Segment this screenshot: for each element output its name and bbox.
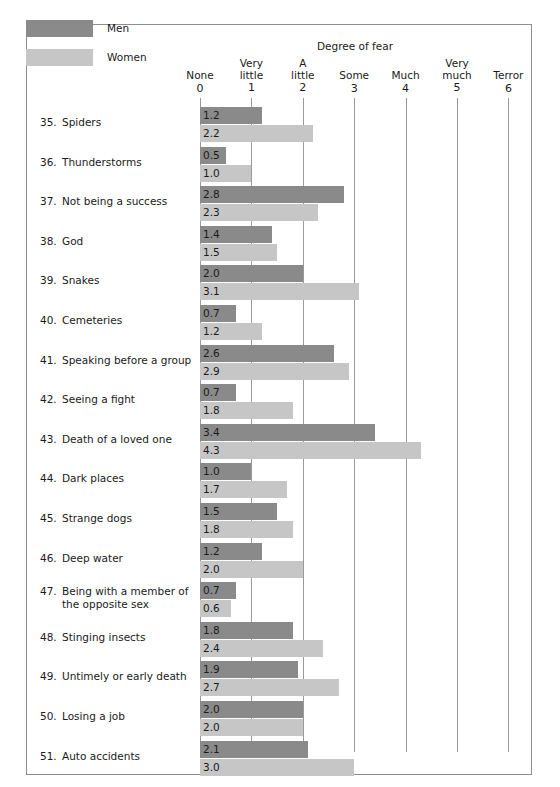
row-label: 44.Dark places bbox=[40, 472, 200, 485]
row-item-name: Stinging insects bbox=[62, 631, 196, 644]
bar-women: 1.2 bbox=[200, 323, 262, 340]
bar-women: 2.2 bbox=[200, 125, 313, 142]
bar-value-label: 0.7 bbox=[203, 584, 220, 597]
bar-value-label: 2.4 bbox=[203, 642, 220, 655]
row-label: 35.Spiders bbox=[40, 116, 200, 129]
bar-women: 2.3 bbox=[200, 204, 318, 221]
row-number: 40. bbox=[40, 314, 62, 327]
bar-women: 4.3 bbox=[200, 442, 421, 459]
bar-value-label: 1.5 bbox=[203, 505, 220, 518]
row-label: 36.Thunderstorms bbox=[40, 156, 200, 169]
chart-row: 43.Death of a loved one3.44.3 bbox=[0, 424, 560, 464]
chart-row: 42.Seeing a fight0.71.8 bbox=[0, 384, 560, 424]
row-number: 47. bbox=[40, 585, 62, 598]
bar-men: 2.0 bbox=[200, 701, 303, 718]
bar-men: 1.9 bbox=[200, 661, 298, 678]
bar-value-label: 1.0 bbox=[203, 167, 220, 180]
bar-value-label: 0.7 bbox=[203, 307, 220, 320]
row-number: 46. bbox=[40, 552, 62, 565]
row-item-name: Snakes bbox=[62, 274, 196, 287]
row-label: 48.Stinging insects bbox=[40, 631, 200, 644]
bar-men: 0.7 bbox=[200, 384, 236, 401]
row-number: 50. bbox=[40, 710, 62, 723]
bar-women: 1.0 bbox=[200, 165, 251, 182]
row-number: 48. bbox=[40, 631, 62, 644]
row-item-name: Being with a member of the opposite sex bbox=[62, 585, 196, 610]
bar-men: 1.5 bbox=[200, 503, 277, 520]
row-item-name: Seeing a fight bbox=[62, 393, 196, 406]
row-label: 43.Death of a loved one bbox=[40, 433, 200, 446]
bar-men: 1.0 bbox=[200, 463, 251, 480]
bar-women: 2.7 bbox=[200, 679, 339, 696]
row-number: 43. bbox=[40, 433, 62, 446]
chart-row: 51.Auto accidents2.13.0 bbox=[0, 741, 560, 781]
bar-women: 1.5 bbox=[200, 244, 277, 261]
chart-row: 47.Being with a member of the opposite s… bbox=[0, 582, 560, 622]
bar-value-label: 1.7 bbox=[203, 483, 220, 496]
bar-value-label: 0.5 bbox=[203, 149, 220, 162]
row-label: 45.Strange dogs bbox=[40, 512, 200, 525]
chart-row: 49.Untimely or early death1.92.7 bbox=[0, 661, 560, 701]
row-item-name: Thunderstorms bbox=[62, 156, 196, 169]
bar-men: 1.2 bbox=[200, 107, 262, 124]
row-number: 49. bbox=[40, 670, 62, 683]
row-label: 39.Snakes bbox=[40, 274, 200, 287]
bar-value-label: 2.0 bbox=[203, 703, 220, 716]
row-number: 41. bbox=[40, 354, 62, 367]
row-item-name: Spiders bbox=[62, 116, 196, 129]
bar-value-label: 1.8 bbox=[203, 404, 220, 417]
chart-row: 41.Speaking before a group2.62.9 bbox=[0, 345, 560, 385]
bar-men: 1.2 bbox=[200, 543, 262, 560]
bar-value-label: 1.2 bbox=[203, 545, 220, 558]
chart-row: 40.Cemeteries0.71.2 bbox=[0, 305, 560, 345]
bar-value-label: 4.3 bbox=[203, 444, 220, 457]
row-item-name: Cemeteries bbox=[62, 314, 196, 327]
row-number: 51. bbox=[40, 750, 62, 763]
bar-women: 3.0 bbox=[200, 759, 354, 776]
bar-men: 2.6 bbox=[200, 345, 334, 362]
row-number: 39. bbox=[40, 274, 62, 287]
bar-value-label: 3.1 bbox=[203, 285, 220, 298]
fear-survey-chart-figure: Men Women Degree of fear None0Very littl… bbox=[0, 0, 560, 787]
row-item-name: God bbox=[62, 235, 196, 248]
bar-women: 2.0 bbox=[200, 561, 303, 578]
row-item-name: Death of a loved one bbox=[62, 433, 196, 446]
bar-value-label: 1.9 bbox=[203, 663, 220, 676]
row-label: 49.Untimely or early death bbox=[40, 670, 200, 683]
row-item-name: Strange dogs bbox=[62, 512, 196, 525]
bar-women: 1.8 bbox=[200, 402, 293, 419]
row-label: 41.Speaking before a group bbox=[40, 354, 200, 367]
chart-row: 39.Snakes2.03.1 bbox=[0, 265, 560, 305]
bar-men: 2.0 bbox=[200, 265, 303, 282]
row-number: 37. bbox=[40, 195, 62, 208]
row-number: 35. bbox=[40, 116, 62, 129]
bar-value-label: 1.8 bbox=[203, 624, 220, 637]
row-label: 50.Losing a job bbox=[40, 710, 200, 723]
bar-value-label: 1.4 bbox=[203, 228, 220, 241]
row-number: 44. bbox=[40, 472, 62, 485]
bar-men: 2.8 bbox=[200, 186, 344, 203]
chart-row: 38.God1.41.5 bbox=[0, 226, 560, 266]
row-label: 51.Auto accidents bbox=[40, 750, 200, 763]
bar-value-label: 1.8 bbox=[203, 523, 220, 536]
row-label: 38.God bbox=[40, 235, 200, 248]
bar-men: 1.4 bbox=[200, 226, 272, 243]
bar-women: 0.6 bbox=[200, 600, 231, 617]
bar-value-label: 2.3 bbox=[203, 206, 220, 219]
bar-value-label: 1.0 bbox=[203, 465, 220, 478]
bar-value-label: 1.5 bbox=[203, 246, 220, 259]
bar-value-label: 1.2 bbox=[203, 325, 220, 338]
row-number: 38. bbox=[40, 235, 62, 248]
bar-women: 1.7 bbox=[200, 481, 287, 498]
bar-women: 2.0 bbox=[200, 719, 303, 736]
chart-row: 45.Strange dogs1.51.8 bbox=[0, 503, 560, 543]
bar-value-label: 1.2 bbox=[203, 109, 220, 122]
bar-men: 0.7 bbox=[200, 582, 236, 599]
bar-men: 2.1 bbox=[200, 741, 308, 758]
row-label: 42.Seeing a fight bbox=[40, 393, 200, 406]
bar-value-label: 2.1 bbox=[203, 743, 220, 756]
row-number: 36. bbox=[40, 156, 62, 169]
bar-value-label: 0.7 bbox=[203, 386, 220, 399]
bar-women: 2.4 bbox=[200, 640, 323, 657]
bar-women: 2.9 bbox=[200, 363, 349, 380]
